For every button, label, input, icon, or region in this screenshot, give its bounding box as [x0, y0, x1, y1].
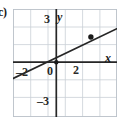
- y-axis-label: y: [57, 11, 62, 23]
- coordinate-plot: [13, 9, 117, 117]
- x-tick-label-zero: 0: [47, 65, 53, 77]
- plot-svg: [13, 9, 117, 117]
- part-label: c): [0, 6, 7, 18]
- figure-container: c): [0, 0, 124, 126]
- origin-marker: [54, 60, 58, 64]
- x-axis-label: x: [105, 52, 111, 64]
- data-point-marker: [88, 34, 93, 39]
- y-tick-label-3: 3: [44, 13, 50, 25]
- y-tick-label-neg3: –3: [37, 95, 49, 107]
- x-tick-label-2: 2: [73, 64, 79, 76]
- x-tick-label-neg2: –2: [16, 66, 28, 78]
